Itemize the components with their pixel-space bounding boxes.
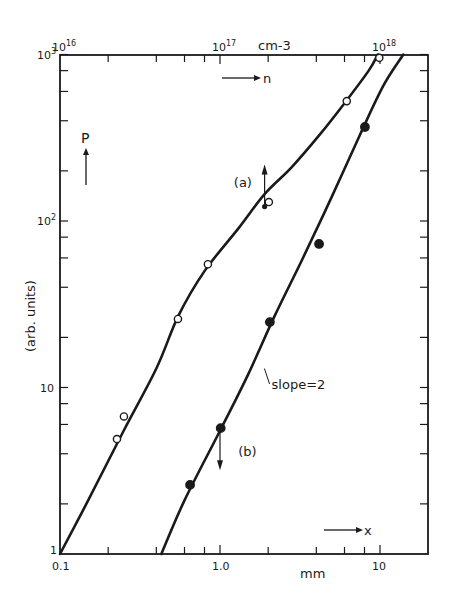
filled-circle-point bbox=[266, 318, 274, 326]
x-arrow: x bbox=[324, 523, 372, 538]
annotation-slope2: slope=2 bbox=[272, 377, 326, 392]
x2-tick-label: 1017 bbox=[212, 39, 236, 54]
curve-a bbox=[60, 55, 378, 555]
x2-axis-unit-label: cm-3 bbox=[258, 38, 291, 53]
x2-tick-label: 1018 bbox=[372, 39, 396, 54]
annotation-a: (a) bbox=[234, 175, 252, 190]
y-axis-label: (arb. units) bbox=[23, 280, 38, 352]
n-arrow: n bbox=[222, 71, 271, 86]
chart-svg: 0.11.010101610171018110102103 mm cm-3 x … bbox=[0, 0, 456, 609]
open-circle-point bbox=[174, 315, 181, 322]
x-axis-unit-label: mm bbox=[300, 566, 325, 581]
plot-frame bbox=[60, 55, 428, 554]
open-circle-point bbox=[343, 97, 350, 104]
axis-ticks bbox=[60, 55, 428, 555]
x-tick-label: 1.0 bbox=[212, 560, 230, 573]
open-circle-point bbox=[265, 198, 272, 205]
annotation-b: (b) bbox=[238, 444, 256, 459]
n-arrow-label: n bbox=[263, 71, 271, 86]
arrowhead-icon bbox=[262, 165, 268, 175]
chart-figure: 0.11.010101610171018110102103 mm cm-3 x … bbox=[0, 0, 456, 609]
y-tick-label: 10 bbox=[40, 382, 54, 395]
y-tick-label: 102 bbox=[37, 213, 56, 228]
open-circle-point bbox=[376, 54, 383, 61]
x-tick-label: 0.1 bbox=[52, 560, 70, 573]
p-arrow: P bbox=[81, 130, 89, 185]
slope-leader-line bbox=[264, 369, 269, 384]
y-tick-label: 1 bbox=[50, 544, 57, 557]
p-arrow-label: P bbox=[81, 130, 89, 146]
fit-curves bbox=[60, 55, 403, 555]
data-points bbox=[113, 54, 383, 489]
arrowhead-icon bbox=[217, 460, 223, 470]
filled-circle-point bbox=[315, 240, 323, 248]
filled-circle-point bbox=[361, 123, 369, 131]
open-circle-point bbox=[120, 413, 127, 420]
open-circle-point bbox=[113, 435, 120, 442]
x-arrow-label: x bbox=[364, 523, 372, 538]
filled-circle-point bbox=[186, 481, 194, 489]
x-tick-label: 10 bbox=[372, 560, 386, 573]
open-circle-point bbox=[204, 261, 211, 268]
y-tick-label: 103 bbox=[37, 47, 56, 62]
